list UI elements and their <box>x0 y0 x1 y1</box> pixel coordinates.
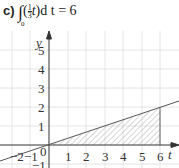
svg-text:5: 5 <box>38 43 45 58</box>
svg-text:3: 3 <box>102 149 109 164</box>
svg-text:−2: −2 <box>10 149 24 164</box>
svg-text:6: 6 <box>157 149 164 164</box>
tick-labels: −2−10 123 456 t y 543 21−1 <box>10 35 172 168</box>
svg-text:t: t <box>168 147 172 162</box>
svg-text:4: 4 <box>120 149 127 164</box>
svg-text:−1: −1 <box>32 158 46 168</box>
svg-text:1: 1 <box>38 119 45 134</box>
svg-text:1: 1 <box>65 149 72 164</box>
axes <box>0 31 179 168</box>
graph: −2−10 123 456 t y 543 21−1 <box>0 0 179 168</box>
svg-text:0: 0 <box>40 144 47 159</box>
svg-text:4: 4 <box>38 62 45 77</box>
svg-text:2: 2 <box>83 149 90 164</box>
svg-text:3: 3 <box>38 81 45 96</box>
svg-text:5: 5 <box>139 149 146 164</box>
svg-text:2: 2 <box>38 100 45 115</box>
grid <box>0 31 179 168</box>
